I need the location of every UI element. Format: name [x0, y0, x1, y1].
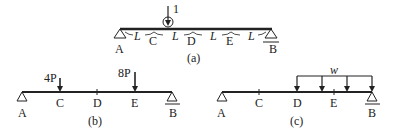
svg-text:A: A [217, 106, 226, 120]
svg-text:D: D [293, 96, 302, 110]
svg-text:E: E [330, 96, 337, 110]
point-label-d: D [187, 34, 196, 48]
point-label-a: A [115, 42, 124, 56]
roller-support-icon [265, 29, 277, 38]
svg-text:C: C [255, 96, 263, 110]
load-label-w: w [330, 63, 338, 77]
load-label-8p: 8P [118, 66, 131, 80]
load-label: 1 [173, 2, 179, 16]
pin-support-icon [217, 92, 227, 101]
point-label-b: B [269, 42, 277, 56]
svg-text:L: L [209, 29, 217, 43]
svg-text:A: A [18, 106, 27, 120]
pin-support-icon [17, 92, 27, 101]
svg-text:B: B [368, 106, 376, 120]
pin-support-icon [114, 29, 126, 38]
figure-b: 4P 8P A C D E B (b) [17, 66, 180, 128]
svg-text:L: L [247, 29, 255, 43]
svg-text:L: L [171, 29, 179, 43]
svg-text:C: C [56, 96, 64, 110]
svg-text:L: L [133, 29, 141, 43]
caption-a: (a) [187, 51, 200, 65]
figure-a: 1 L L L L C D E A B (a) [114, 2, 279, 65]
svg-text:E: E [131, 96, 138, 110]
load-label-4p: 4P [44, 71, 57, 85]
point-label-e: E [226, 34, 233, 48]
figure-c: w A C D E B (c) [217, 63, 380, 128]
roller-support-icon [167, 92, 177, 101]
caption-b: (b) [88, 114, 102, 128]
svg-text:B: B [169, 106, 177, 120]
svg-text:D: D [93, 96, 102, 110]
point-label-c: C [149, 34, 157, 48]
beam-diagrams: 1 L L L L C D E A B (a) 4P 8P A C D E [0, 0, 396, 138]
caption-c: (c) [290, 114, 303, 128]
roller-support-icon [367, 92, 377, 101]
